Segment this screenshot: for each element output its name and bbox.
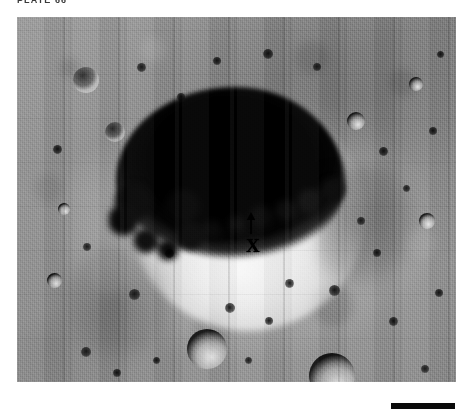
plate-caption: PLATE 66 <box>17 0 67 5</box>
film-grain <box>17 17 456 382</box>
arrow-up-marker <box>246 212 256 234</box>
scale-bar <box>391 403 455 409</box>
lunar-orbiter-photograph: X <box>17 17 456 382</box>
x-marker: X <box>246 236 260 255</box>
